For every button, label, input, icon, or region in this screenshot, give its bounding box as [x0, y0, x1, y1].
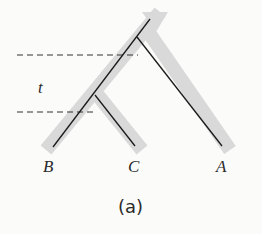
species-branch-c	[96, 93, 142, 150]
caption: (a)	[118, 196, 143, 217]
species-branch-a	[147, 30, 230, 150]
species-tree	[46, 12, 230, 150]
leaf-label-a: A	[215, 157, 227, 176]
leaf-label-b: B	[43, 157, 54, 176]
gene-branch-c	[95, 95, 135, 146]
leaf-label-c: C	[128, 157, 140, 176]
tree-diagram: B C A t (a)	[0, 0, 262, 234]
gene-tree	[53, 19, 222, 147]
gene-branch-a	[137, 37, 222, 146]
gene-branch-b	[53, 19, 150, 147]
interval-label-t: t	[38, 78, 44, 97]
